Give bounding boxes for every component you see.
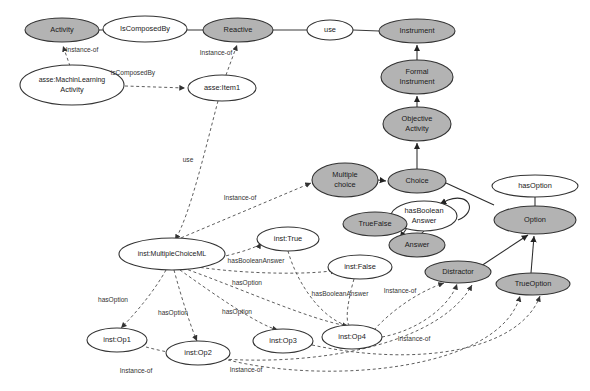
node-label-instfalse: inst:False (344, 262, 376, 271)
node-truefalse[interactable]: TrueFalse (343, 212, 407, 236)
node-label2-mlactivity: Activity (60, 85, 84, 94)
node-label-reactive: Reactive (224, 25, 253, 34)
node-op3[interactable]: inst:Op3 (253, 329, 313, 353)
edge-label-l-iscomposedby-inst: isComposedBy (111, 69, 156, 77)
edge-label-l-instanceof-bl: Instance-of (120, 367, 153, 374)
node-reactive[interactable]: Reactive (203, 18, 273, 42)
node-use[interactable]: use (307, 20, 353, 40)
edge-distractor-option (481, 235, 528, 266)
node-distractor[interactable]: Distractor (425, 261, 491, 283)
node-label2-multiplechoice: choice (334, 180, 355, 189)
edge-label-l-hasoption-a: hasOption (232, 279, 262, 287)
node-label2-formalinstrument: Instrument (400, 77, 435, 86)
edge-label-l-use-inst: use (183, 156, 194, 163)
edge-label-l-hasbool-true: hasBooleanAnswer (228, 257, 286, 264)
edge-label-l-instanceof-op4: Instance-of (384, 287, 417, 294)
edge-label-l-instanceof-activity: Instance-of (66, 46, 99, 53)
node-trueoption[interactable]: TrueOption (496, 273, 570, 295)
diagram-canvas: ActivityIsComposedByReactiveuseInstrumen… (0, 0, 590, 391)
node-iscomposedby[interactable]: IsComposedBy (103, 16, 187, 42)
node-label-insttrue: inst:True (274, 234, 302, 243)
edge-label-l-hasoption-d: hasOption (222, 308, 252, 316)
node-label-multiplechoice: Multiple (332, 170, 357, 179)
node-label-mcml: inst:MultipleChoiceML (138, 250, 207, 258)
node-mlactivity[interactable]: asse:MachinLearningActivity (20, 65, 124, 105)
edge-mcml-op4 (183, 268, 348, 326)
node-insttrue[interactable]: inst:True (257, 227, 319, 251)
node-label-option: Option (524, 215, 546, 224)
node-label-choice: Choice (405, 176, 428, 185)
node-objectiveactivity[interactable]: ObjectiveActivity (383, 107, 451, 141)
node-label-item1: asse:Item1 (204, 83, 240, 92)
node-op4[interactable]: inst:Op4 (322, 325, 382, 349)
node-label-distractor: Distractor (442, 267, 474, 276)
node-label-iscomposedby: IsComposedBy (120, 24, 170, 33)
edge-label-l-instanceof-bm: Instance-of (230, 366, 263, 373)
edges-instance (63, 45, 540, 371)
node-label-hasbooleananswer: hasBoolean (404, 206, 443, 215)
node-option[interactable]: Option (494, 206, 576, 234)
node-label-hasoption: hasOption (518, 181, 552, 190)
node-label-op3: inst:Op3 (269, 336, 297, 345)
node-mcml[interactable]: inst:MultipleChoiceML (119, 238, 225, 270)
node-label-activity: Activity (50, 25, 74, 34)
edge-choice-hasoption (446, 183, 494, 205)
edge-item1-mcml (175, 101, 218, 240)
node-item1[interactable]: asse:Item1 (188, 75, 256, 101)
node-formalinstrument[interactable]: FormalInstrument (381, 60, 453, 94)
node-label-op4: inst:Op4 (338, 332, 366, 341)
node-label-formalinstrument: Formal (406, 67, 429, 76)
edge-mcml-op2 (174, 270, 197, 341)
node-op2[interactable]: inst:Op2 (166, 341, 230, 365)
node-op1[interactable]: inst:Op1 (87, 328, 147, 352)
edge-label-l-instanceof-mc: Instance-of (224, 194, 257, 201)
edge-label-l-instanceof-right: Instance-of (398, 335, 431, 342)
diagram-svg: ActivityIsComposedByReactiveuseInstrumen… (0, 0, 590, 391)
node-label-op1: inst:Op1 (103, 335, 131, 344)
node-label-trueoption: TrueOption (515, 279, 552, 288)
edge-label-l-hasbool-false: hasBooleanAnswer (312, 290, 370, 297)
nodes-layer: ActivityIsComposedByReactiveuseInstrumen… (20, 16, 578, 365)
node-answer[interactable]: Answer (389, 233, 445, 257)
node-label2-objectiveactivity: Activity (405, 124, 429, 133)
edge-label-l-instanceof-reactive: Instance-of (200, 49, 233, 56)
node-hasoption[interactable]: hasOption (492, 175, 578, 197)
node-instrument[interactable]: Instrument (379, 19, 455, 43)
edge-mlactivity-item1 (125, 86, 185, 88)
node-choice[interactable]: Choice (388, 169, 446, 193)
node-label-mlactivity: asse:MachinLearning (39, 76, 106, 84)
node-multiplechoice[interactable]: Multiplechoice (312, 163, 378, 197)
edge-mcml-op3 (180, 270, 278, 330)
node-label-op2: inst:Op2 (184, 348, 212, 357)
edge-instfalse-op4 (347, 279, 354, 325)
node-label2-hasbooleananswer: Answer (412, 216, 437, 225)
node-label-instrument: Instrument (400, 26, 435, 35)
node-label-answer: Answer (405, 240, 430, 249)
node-label-truefalse: TrueFalse (359, 219, 392, 228)
node-label-use: use (324, 25, 336, 34)
edge-label-l-hasoption-c: hasOption (158, 309, 188, 317)
node-instfalse[interactable]: inst:False (328, 255, 392, 279)
edge-multiplechoice-choice (378, 180, 386, 181)
node-label-objectiveactivity: Objective (402, 114, 433, 123)
node-activity[interactable]: Activity (25, 18, 99, 42)
edge-label-l-hasoption-b: hasOption (98, 296, 128, 304)
edge-trueoption-option (531, 236, 534, 273)
